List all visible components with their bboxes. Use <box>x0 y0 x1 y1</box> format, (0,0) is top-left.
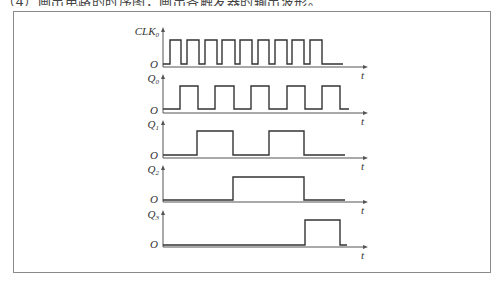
q3-waveform <box>163 220 347 245</box>
q2-origin-label: O <box>150 193 158 205</box>
q3-time-label: t <box>361 249 365 261</box>
q2-y-arrow-icon <box>161 165 165 170</box>
q2-waveform <box>163 177 345 200</box>
clk0-y-arrow-icon <box>161 27 165 32</box>
q3-y-arrow-icon <box>161 210 165 215</box>
q1-y-arrow-icon <box>161 120 165 125</box>
q1-waveform <box>163 131 345 155</box>
q1-origin-label: O <box>150 149 158 161</box>
q0-waveform <box>163 86 349 109</box>
q0-origin-label: O <box>150 104 158 116</box>
clk0-origin-label: O <box>150 58 158 70</box>
clk0-signal-label: CLK0 <box>135 25 160 39</box>
q0-signal-label: Q0 <box>148 72 160 86</box>
q3-origin-label: O <box>150 238 158 250</box>
q2-time-label: t <box>361 204 365 216</box>
q2-signal-label: Q2 <box>148 163 160 177</box>
clk0-waveform <box>163 40 343 64</box>
timing-diagram: CLK0OtQ0OtQ1OtQ2OtQ3Ot <box>0 0 501 283</box>
q1-signal-label: Q1 <box>148 118 159 132</box>
q3-signal-label: Q3 <box>148 208 160 222</box>
q0-time-label: t <box>361 115 365 127</box>
q0-y-arrow-icon <box>161 74 165 79</box>
clk0-time-label: t <box>361 69 365 81</box>
q1-time-label: t <box>361 160 365 172</box>
